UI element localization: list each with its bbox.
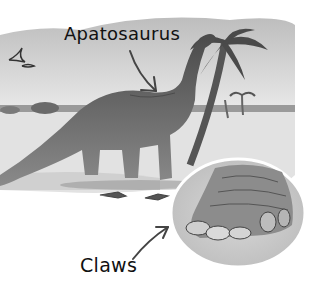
arrow-claws: [133, 227, 168, 259]
claws-inset: [171, 159, 305, 267]
small-dinosaurs: [100, 192, 168, 200]
claws-label: Claws: [80, 254, 137, 276]
illustration: Apatosaurus Claws: [0, 0, 313, 284]
apatosaurus-label: Apatosaurus: [64, 23, 180, 44]
